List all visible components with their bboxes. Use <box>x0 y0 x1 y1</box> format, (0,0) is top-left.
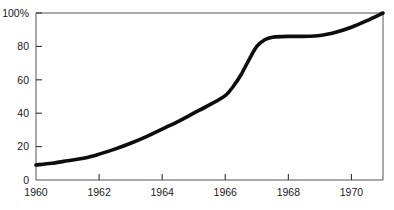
x-axis-tick-label: 1968 <box>277 186 301 198</box>
y-axis-ticks <box>36 13 42 147</box>
plot-border <box>36 13 383 180</box>
line-chart: 020406080100% 196019621964196619681970 <box>0 0 394 210</box>
x-axis-tick-labels: 196019621964196619681970 <box>24 186 363 198</box>
plot-frame <box>36 13 383 180</box>
y-axis-tick-label: 20 <box>17 140 29 152</box>
x-axis-tick-label: 1970 <box>340 186 364 198</box>
x-axis-ticks <box>99 174 351 180</box>
x-axis-tick-label: 1962 <box>87 186 111 198</box>
y-axis-tick-label: 100% <box>2 7 29 19</box>
y-axis-tick-labels: 020406080100% <box>2 7 29 186</box>
x-axis-tick-label: 1960 <box>24 186 48 198</box>
y-axis-tick-label: 80 <box>17 40 29 52</box>
x-axis-tick-label: 1964 <box>151 186 175 198</box>
x-axis-tick-label: 1966 <box>214 186 238 198</box>
y-axis-tick-label: 0 <box>23 174 29 186</box>
chart-container: 020406080100% 196019621964196619681970 <box>0 0 394 210</box>
y-axis-tick-label: 40 <box>17 107 29 119</box>
data-series-line <box>36 13 383 165</box>
y-axis-tick-label: 60 <box>17 74 29 86</box>
